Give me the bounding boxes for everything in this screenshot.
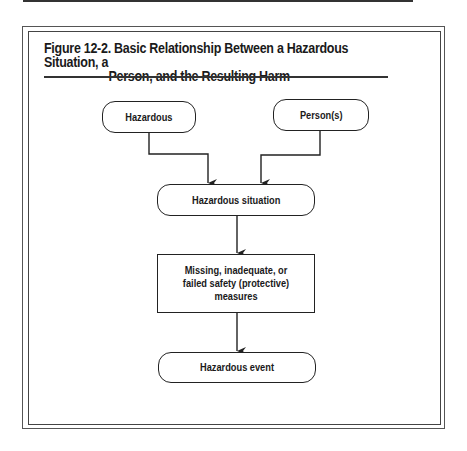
node-safety-measures: Missing, inadequate, or failed safety (p… [157, 254, 315, 313]
node-safety-measures-label: Missing, inadequate, or failed safety (p… [180, 264, 293, 303]
node-hazardous-label: Hazardous [125, 111, 172, 124]
edge-persons-to-situation [261, 131, 320, 183]
node-persons: Person(s) [273, 99, 369, 131]
node-hazardous-event: Hazardous event [158, 352, 316, 383]
node-hazardous-situation: Hazardous situation [157, 184, 315, 216]
node-hazardous: Hazardous [102, 101, 196, 133]
connector-arrows [0, 0, 467, 451]
node-hazardous-situation-label: Hazardous situation [192, 194, 280, 207]
node-hazardous-event-label: Hazardous event [200, 361, 274, 374]
edge-hazardous-to-situation [149, 133, 208, 183]
node-persons-label: Person(s) [300, 109, 343, 122]
